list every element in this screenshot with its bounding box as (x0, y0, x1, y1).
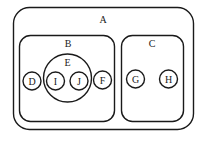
set-d: D (23, 72, 41, 90)
set-e: E (44, 54, 92, 102)
set-diagram: A B C E D I J F G H (0, 0, 205, 141)
set-c: C (122, 36, 184, 122)
set-g: G (127, 70, 145, 88)
set-a: A (14, 8, 194, 130)
set-i: I (47, 72, 65, 90)
set-h-label: H (165, 74, 172, 85)
set-g-label: G (132, 74, 139, 85)
set-i-label: I (54, 76, 57, 87)
set-j-label: J (77, 76, 81, 87)
set-a-label: A (99, 14, 107, 25)
set-h: H (160, 70, 178, 88)
set-f: F (94, 71, 112, 89)
set-b-label: B (65, 38, 72, 49)
set-c-label: C (149, 38, 156, 49)
set-f-label: F (100, 75, 106, 86)
set-j: J (70, 72, 88, 90)
set-e-label: E (64, 57, 70, 68)
set-d-label: D (28, 76, 35, 87)
set-a-boundary (14, 8, 194, 130)
